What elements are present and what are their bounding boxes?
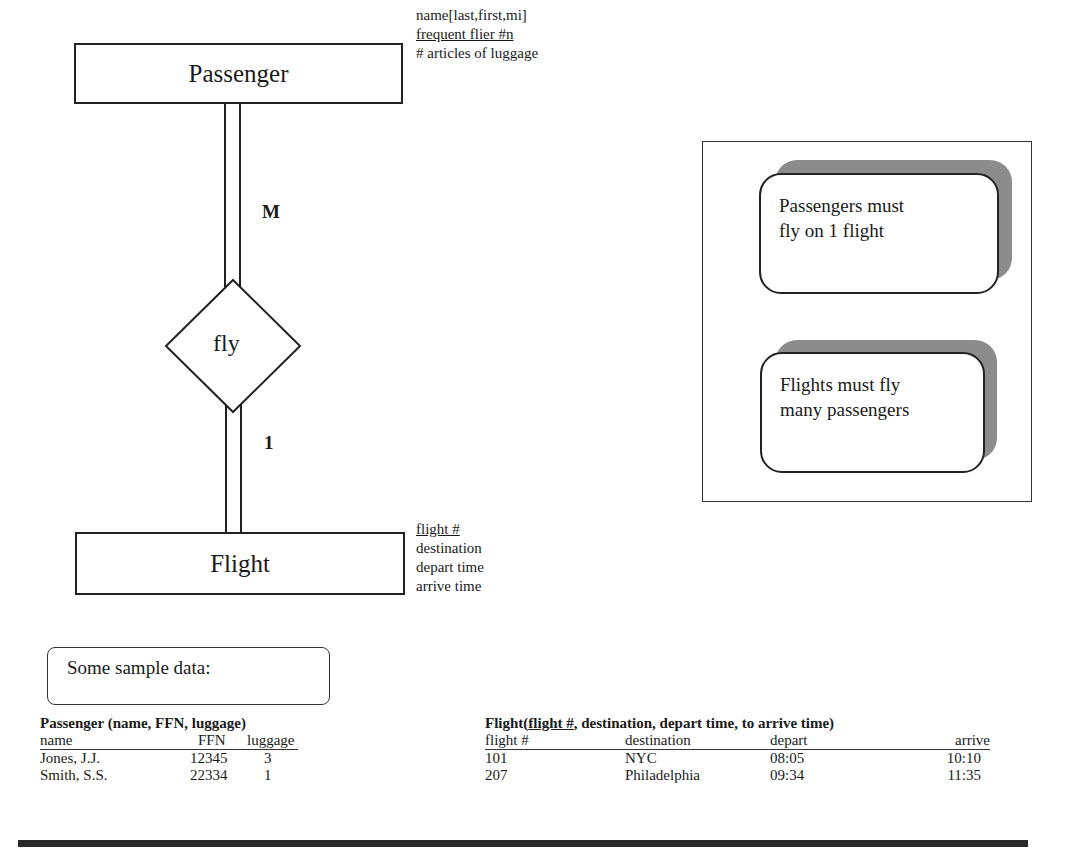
table-cell: 22334 <box>190 767 228 784</box>
flight-sample-table: Flight(flight #, destination, depart tim… <box>485 715 995 784</box>
flight-entity: Flight <box>75 532 405 595</box>
flight-attr-arrive: arrive time <box>416 577 484 596</box>
passenger-table-header: name FFN luggage <box>40 732 298 750</box>
column-header: FFN <box>198 732 226 749</box>
flight-table-title-key: flight # <box>528 715 573 731</box>
flight-attr-depart: depart time <box>416 558 484 577</box>
flight-attributes: flight # destination depart time arrive … <box>416 520 484 596</box>
table-cell: 09:34 <box>770 767 804 784</box>
section-divider <box>18 840 1028 847</box>
table-cell: 207 <box>485 767 508 784</box>
flight-attr-destination: destination <box>416 539 484 558</box>
table-cell: 3 <box>264 750 272 767</box>
column-header: destination <box>625 732 691 749</box>
note-line: Flights must fly <box>780 372 983 397</box>
flight-attr-number-key: flight # <box>416 520 484 539</box>
table-cell: NYC <box>625 750 657 767</box>
table-row: Jones, J.J. 12345 3 <box>40 750 340 767</box>
flight-table-title-prefix: Flight( <box>485 715 528 731</box>
column-header: depart <box>770 732 807 749</box>
table-cell: Philadelphia <box>625 767 700 784</box>
table-cell: 11:35 <box>947 767 981 784</box>
table-cell: 08:05 <box>770 750 804 767</box>
note-line: many passengers <box>780 397 983 422</box>
table-cell: 1 <box>264 767 272 784</box>
relationship-label: fly <box>213 330 240 357</box>
flight-table-title-suffix: , destination, depart time, to arrive ti… <box>574 715 834 731</box>
table-row: Smith, S.S. 22334 1 <box>40 767 340 784</box>
cardinality-many: M <box>262 201 280 223</box>
flight-table-header: flight # destination depart arrive <box>485 732 990 750</box>
table-cell: Jones, J.J. <box>40 750 100 767</box>
column-header: flight # <box>485 732 529 749</box>
column-header: luggage <box>247 732 294 749</box>
table-cell: Smith, S.S. <box>40 767 108 784</box>
flight-entity-label: Flight <box>210 550 270 578</box>
column-header: arrive <box>955 732 990 749</box>
table-row: 207 Philadelphia 09:34 11:35 <box>485 767 990 784</box>
note-passengers-constraint: Passengers must fly on 1 flight <box>759 173 999 294</box>
table-row: 101 NYC 08:05 10:10 <box>485 750 990 767</box>
sample-data-heading-text: Some sample data: <box>67 657 211 678</box>
passenger-table-title: Passenger (name, FFN, luggage) <box>40 715 340 732</box>
table-cell: 10:10 <box>947 750 981 767</box>
cardinality-one: 1 <box>264 432 274 454</box>
sample-data-heading: Some sample data: <box>47 647 330 705</box>
column-header: name <box>40 732 72 749</box>
note-line: Passengers must <box>779 193 997 218</box>
flight-table-title: Flight(flight #, destination, depart tim… <box>485 715 995 732</box>
note-flights-constraint: Flights must fly many passengers <box>760 352 985 473</box>
table-cell: 12345 <box>190 750 228 767</box>
note-line: fly on 1 flight <box>779 218 997 243</box>
passenger-sample-table: Passenger (name, FFN, luggage) name FFN … <box>40 715 340 784</box>
table-cell: 101 <box>485 750 508 767</box>
